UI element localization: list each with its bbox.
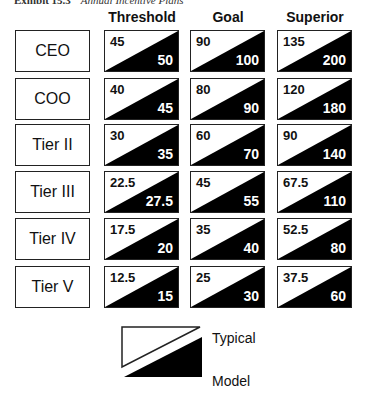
typical-value: 135 bbox=[283, 34, 305, 49]
incentive-cell-threshold: 17.520 bbox=[104, 218, 179, 260]
typical-value: 120 bbox=[283, 82, 305, 97]
model-value: 30 bbox=[243, 288, 259, 304]
incentive-cell-superior: 90140 bbox=[277, 124, 352, 166]
model-value: 55 bbox=[243, 193, 259, 209]
model-value: 60 bbox=[330, 288, 346, 304]
model-value: 50 bbox=[157, 52, 173, 68]
model-value: 80 bbox=[330, 240, 346, 256]
model-value: 100 bbox=[236, 52, 259, 68]
incentive-cell-goal: 6070 bbox=[190, 124, 265, 166]
legend-model-label: Model bbox=[212, 373, 250, 389]
model-value: 40 bbox=[243, 240, 259, 256]
typical-value: 52.5 bbox=[283, 222, 308, 237]
model-value: 15 bbox=[157, 288, 173, 304]
incentive-cell-superior: 135200 bbox=[277, 30, 352, 72]
incentive-cell-goal: 2530 bbox=[190, 266, 265, 308]
model-value: 90 bbox=[243, 100, 259, 116]
row-label: COO bbox=[15, 78, 90, 120]
incentive-cell-superior: 37.560 bbox=[277, 266, 352, 308]
column-header-superior: Superior bbox=[277, 9, 353, 25]
exhibit-title: Exhibit 15.3Annual Incentive Plans bbox=[14, 0, 184, 6]
incentive-cell-threshold: 4550 bbox=[104, 30, 179, 72]
model-value: 140 bbox=[323, 146, 346, 162]
model-value: 70 bbox=[243, 146, 259, 162]
column-header-threshold: Threshold bbox=[104, 9, 180, 25]
typical-value: 90 bbox=[283, 128, 297, 143]
typical-value: 37.5 bbox=[283, 270, 308, 285]
typical-value: 80 bbox=[196, 82, 210, 97]
incentive-cell-superior: 52.580 bbox=[277, 218, 352, 260]
model-value: 180 bbox=[323, 100, 346, 116]
legend-typical-label: Typical bbox=[212, 330, 256, 346]
typical-value: 22.5 bbox=[110, 175, 135, 190]
incentive-cell-goal: 8090 bbox=[190, 78, 265, 120]
exhibit-caption: Annual Incentive Plans bbox=[81, 0, 184, 6]
model-value: 27.5 bbox=[146, 193, 173, 209]
typical-value: 45 bbox=[196, 175, 210, 190]
row-label: Tier IV bbox=[15, 218, 90, 260]
incentive-cell-goal: 4555 bbox=[190, 171, 265, 213]
incentive-cell-superior: 120180 bbox=[277, 78, 352, 120]
typical-value: 35 bbox=[196, 222, 210, 237]
typical-value: 45 bbox=[110, 34, 124, 49]
typical-value: 90 bbox=[196, 34, 210, 49]
model-value: 200 bbox=[323, 52, 346, 68]
incentive-cell-threshold: 4045 bbox=[104, 78, 179, 120]
typical-value: 12.5 bbox=[110, 270, 135, 285]
model-value: 20 bbox=[157, 240, 173, 256]
row-label: Tier II bbox=[15, 124, 90, 166]
model-value: 110 bbox=[323, 193, 346, 209]
incentive-cell-goal: 3540 bbox=[190, 218, 265, 260]
incentive-cell-threshold: 22.527.5 bbox=[104, 171, 179, 213]
typical-value: 60 bbox=[196, 128, 210, 143]
row-label: Tier III bbox=[15, 171, 90, 213]
incentive-cell-threshold: 3035 bbox=[104, 124, 179, 166]
typical-value: 67.5 bbox=[283, 175, 308, 190]
incentive-cell-threshold: 12.515 bbox=[104, 266, 179, 308]
incentive-cell-goal: 90100 bbox=[190, 30, 265, 72]
row-label: Tier V bbox=[15, 266, 90, 308]
exhibit-number: Exhibit 15.3 bbox=[14, 0, 71, 6]
typical-value: 25 bbox=[196, 270, 210, 285]
model-value: 45 bbox=[157, 100, 173, 116]
model-value: 35 bbox=[157, 146, 173, 162]
typical-value: 40 bbox=[110, 82, 124, 97]
typical-value: 30 bbox=[110, 128, 124, 143]
incentive-cell-superior: 67.5110 bbox=[277, 171, 352, 213]
row-label: CEO bbox=[15, 30, 90, 72]
typical-value: 17.5 bbox=[110, 222, 135, 237]
column-header-goal: Goal bbox=[190, 9, 266, 25]
